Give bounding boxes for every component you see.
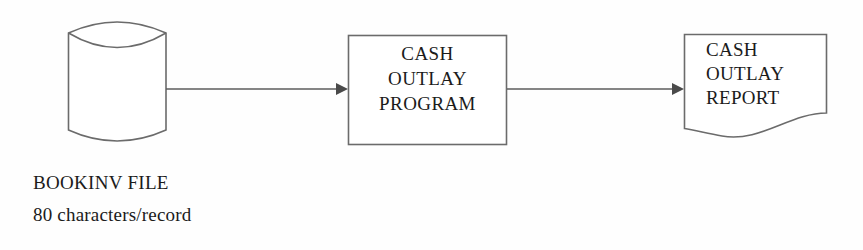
process-line-2: OUTLAY: [388, 68, 467, 89]
bookinv-file-record-size: 80 characters/record: [33, 204, 192, 226]
arrowhead-right-2: [672, 83, 684, 95]
flowchart-canvas: CASHOUTLAYPROGRAM CASHOUTLAYREPORT BOOKI…: [0, 0, 863, 250]
arrowhead-right-1: [336, 83, 348, 95]
document-shape-text: CASHOUTLAYREPORT: [706, 38, 824, 110]
cylinder-shape-bookinv-file[interactable]: [69, 22, 167, 141]
bookinv-file-caption: BOOKINV FILE: [33, 172, 169, 194]
process-line-3: PROGRAM: [379, 93, 476, 114]
report-line-2: OUTLAY: [706, 63, 784, 84]
connector-program-to-report[interactable]: [507, 83, 684, 95]
process-box-text: CASHOUTLAYPROGRAM: [348, 41, 507, 116]
report-line-1: CASH: [706, 39, 758, 60]
process-line-1: CASH: [401, 43, 453, 64]
report-line-3: REPORT: [706, 87, 780, 108]
connector-file-to-program[interactable]: [166, 83, 348, 95]
